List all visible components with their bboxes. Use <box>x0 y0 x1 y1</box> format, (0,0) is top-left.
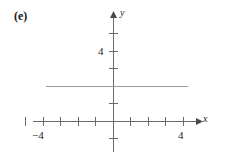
x-axis <box>26 117 204 126</box>
x-tick-label-negative-four: −4 <box>32 130 44 141</box>
y-tick-label-four: 4 <box>98 46 104 57</box>
y-axis-arrow-icon <box>110 11 117 18</box>
graph-figure: (e) <box>0 0 226 158</box>
y-axis-label: y <box>120 8 124 18</box>
y-axis <box>109 11 118 152</box>
x-axis-label: x <box>203 114 207 124</box>
x-axis-arrow-icon <box>196 118 203 125</box>
x-tick-label-four: 4 <box>178 130 184 141</box>
